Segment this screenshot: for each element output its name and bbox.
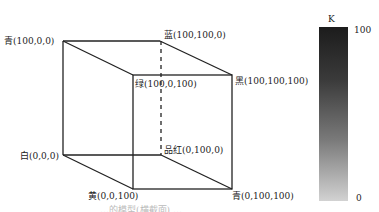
- front-face: [133, 75, 232, 189]
- k-scale-max: 100: [354, 25, 371, 35]
- vertex-label-green: 绿(100,0,100): [135, 79, 197, 89]
- edge-top-left-depth: [63, 41, 133, 75]
- edge-top-right-depth: [160, 41, 232, 75]
- k-scale-title: K: [328, 14, 335, 24]
- vertex-label-magenta: 品红(0,100,0): [164, 145, 223, 155]
- edge-bottom-right-depth: [161, 155, 232, 189]
- k-scale-min: 0: [356, 193, 362, 203]
- vertex-label-cyan-back: 青(100,0,0): [4, 36, 54, 46]
- k-gradient-bar: [319, 27, 348, 201]
- vertex-label-blue: 蓝(100,100,0): [164, 30, 226, 40]
- vertex-label-white: 白(0,0,0): [20, 151, 59, 161]
- vertex-label-yellow: 黄(0,0,100): [88, 191, 138, 201]
- vertex-label-black: 黑(100,100,100): [235, 76, 308, 86]
- vertex-label-cyan-front: 青(0,100,100): [232, 191, 294, 201]
- figure-caption: …的模型(横截面) …: [100, 203, 182, 212]
- edge-bottom-left-depth: [63, 155, 133, 189]
